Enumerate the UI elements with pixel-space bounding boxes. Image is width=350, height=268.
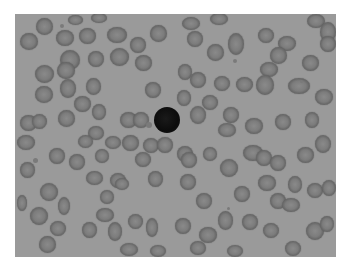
red-blood-cell: [302, 55, 319, 71]
red-blood-cell: [285, 241, 301, 256]
red-blood-cell: [196, 193, 212, 209]
red-blood-cell: [227, 245, 243, 257]
red-blood-cell: [122, 135, 139, 151]
red-blood-cell: [256, 75, 274, 95]
red-blood-cell: [288, 78, 310, 94]
red-blood-cell: [145, 82, 161, 98]
red-blood-cell: [175, 218, 191, 234]
red-blood-cell: [203, 147, 217, 161]
red-blood-cell: [107, 27, 127, 43]
red-blood-cell: [320, 36, 336, 52]
micrograph-image: [15, 14, 336, 257]
red-blood-cell: [190, 106, 206, 124]
red-blood-cell: [82, 222, 97, 238]
red-blood-cell: [180, 174, 196, 190]
red-blood-cell: [258, 175, 276, 191]
red-blood-cell: [88, 51, 104, 67]
red-blood-cell: [96, 208, 114, 222]
red-blood-cell: [30, 207, 48, 225]
red-blood-cell: [20, 162, 35, 178]
red-blood-cell: [245, 118, 263, 134]
red-blood-cell: [40, 183, 58, 201]
red-blood-cell: [135, 55, 152, 71]
red-blood-cell: [190, 241, 206, 255]
red-blood-cell: [79, 28, 96, 44]
red-blood-cell: [320, 216, 334, 232]
red-blood-cell: [315, 135, 331, 153]
red-blood-cell: [86, 171, 103, 185]
red-blood-cell: [128, 214, 143, 229]
red-blood-cell: [110, 48, 129, 66]
red-blood-cell: [202, 95, 218, 110]
red-blood-cell: [58, 110, 75, 127]
red-blood-cell: [214, 76, 230, 91]
red-blood-cell: [35, 86, 53, 103]
platelet: [60, 24, 64, 28]
red-blood-cell: [68, 15, 83, 25]
platelet: [227, 207, 230, 210]
red-blood-cell: [120, 243, 138, 256]
red-blood-cell: [32, 114, 47, 129]
red-blood-cell: [305, 112, 319, 128]
red-blood-cell: [78, 135, 93, 148]
red-blood-cell: [20, 33, 38, 50]
red-blood-cell: [150, 245, 166, 257]
red-blood-cell: [263, 223, 279, 238]
red-blood-cell: [146, 218, 158, 237]
red-blood-cell: [282, 198, 300, 212]
red-blood-cell: [190, 72, 206, 88]
red-blood-cell: [17, 195, 27, 211]
red-blood-cell: [207, 44, 224, 61]
red-blood-cell: [35, 65, 54, 83]
red-blood-cell: [58, 197, 70, 215]
red-blood-cell: [187, 31, 203, 47]
red-blood-cell: [307, 183, 323, 198]
red-blood-cell: [275, 114, 291, 130]
red-blood-cell: [148, 171, 163, 187]
red-blood-cell: [86, 78, 101, 95]
platelet: [233, 59, 237, 63]
red-blood-cell: [218, 123, 236, 137]
red-blood-cell: [220, 159, 238, 177]
red-blood-cell: [177, 90, 191, 106]
red-blood-cell: [115, 178, 129, 190]
red-blood-cell: [135, 152, 151, 167]
red-blood-cell: [91, 14, 107, 23]
red-blood-cell: [49, 148, 65, 164]
red-blood-cell: [234, 186, 250, 202]
red-blood-cell: [223, 107, 239, 123]
red-blood-cell: [50, 221, 66, 236]
platelet: [33, 158, 38, 163]
red-blood-cell: [199, 227, 217, 243]
red-blood-cell: [36, 18, 53, 35]
red-blood-cell: [100, 190, 114, 204]
red-blood-cell: [17, 135, 35, 150]
red-blood-cell: [74, 96, 91, 112]
red-blood-cell: [297, 147, 314, 163]
red-blood-cell: [242, 214, 258, 230]
red-blood-cell: [39, 236, 56, 253]
red-blood-cell: [150, 25, 167, 42]
red-blood-cell: [95, 149, 109, 163]
red-blood-cell: [270, 47, 287, 64]
red-blood-cell: [322, 180, 336, 196]
platelet: [146, 122, 152, 128]
red-blood-cell: [228, 33, 244, 55]
red-blood-cell: [130, 37, 146, 53]
red-blood-cell: [108, 222, 122, 241]
red-blood-cell: [157, 137, 173, 153]
red-blood-cell: [315, 89, 333, 105]
red-blood-cell: [69, 154, 85, 170]
red-blood-cell: [92, 104, 106, 120]
red-blood-cell: [56, 30, 74, 46]
red-blood-cell: [60, 79, 76, 98]
platelet: [300, 80, 303, 83]
red-blood-cell: [288, 176, 302, 193]
red-blood-cell: [57, 62, 75, 79]
red-blood-cell: [181, 152, 197, 168]
red-blood-cell: [210, 14, 228, 25]
red-blood-cell: [218, 211, 233, 230]
red-blood-cell: [270, 155, 286, 171]
red-blood-cell: [236, 77, 253, 92]
lymphocyte: [154, 107, 180, 133]
